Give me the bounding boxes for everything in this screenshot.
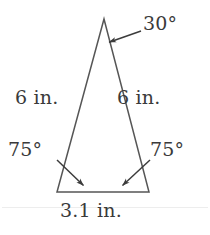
apex-angle-label: 30°: [143, 14, 177, 33]
right-side-length-label: 6 in.: [117, 88, 160, 107]
left-base-angle-leader-arrow: [57, 160, 84, 186]
right-base-angle-label: 75°: [150, 140, 184, 159]
left-base-angle-label: 75°: [8, 140, 42, 159]
geometry-figure: 30° 6 in. 6 in. 75° 75° 3.1 in.: [0, 0, 210, 235]
apex-angle-leader-arrow: [109, 31, 141, 42]
left-side-length-label: 6 in.: [15, 88, 58, 107]
base-length-label: 3.1 in.: [60, 201, 122, 220]
